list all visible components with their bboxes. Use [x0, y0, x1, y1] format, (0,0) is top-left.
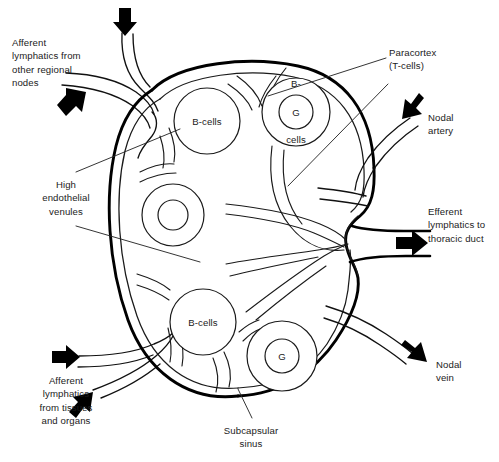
label-paracortex: Paracortex (T-cells) [389, 46, 493, 73]
label-subcapsular-sinus: Subcapsular sinus [196, 424, 306, 451]
follicle-upper-left-label: B-cells [192, 116, 222, 127]
label-nodal-vein: Nodal vein [436, 358, 498, 385]
label-afferent-regional: Afferent lymphatics from other regional … [12, 36, 122, 90]
arrow-afferent-top [113, 8, 137, 36]
label-efferent-lymphatics: Efferent lymphatics to thoracic duct [428, 205, 499, 245]
label-nodal-artery: Nodal artery [428, 111, 494, 138]
label-afferent-tissues: Afferent lymphatics from tissues and org… [14, 374, 118, 428]
arrow-afferent-upper-left [57, 88, 86, 116]
arrow-efferent [396, 230, 428, 256]
germinal-center-upper-right-label: G [292, 107, 300, 118]
lymph-node-diagram: B-cells B- G cells B-cells G [0, 0, 499, 462]
arrow-afferent-lower-left-1 [52, 345, 80, 369]
label-high-endothelial-venules: High endothelial venules [18, 178, 114, 218]
germinal-center-middle-left [158, 200, 188, 230]
follicle-upper-right-label-bottom: cells [286, 134, 306, 145]
afferent-vessel-top-inner [133, 34, 150, 87]
follicle-lower-left-label: B-cells [188, 317, 218, 328]
afferent-vessel-lower-b [78, 355, 153, 367]
germinal-center-lower-right-label: G [278, 351, 286, 362]
arrow-nodal-vein [401, 340, 427, 362]
arrow-nodal-artery [402, 93, 424, 119]
